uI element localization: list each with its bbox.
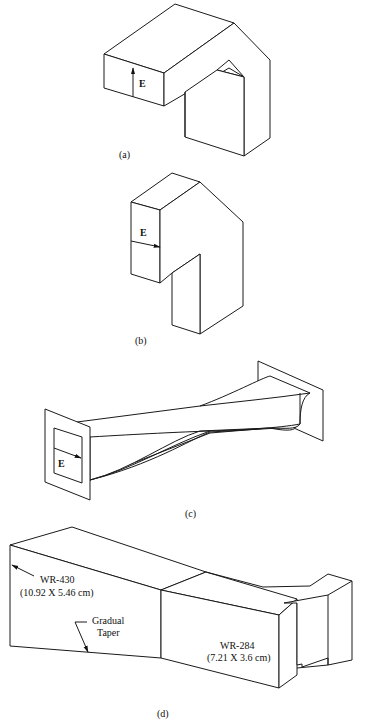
- caption-a: (a): [119, 149, 130, 161]
- e-field-label-a: E: [139, 78, 146, 89]
- wr430-label: WR-430: [40, 574, 74, 585]
- caption-c: (c): [185, 508, 196, 520]
- panel-b-h-plane-bend: E (b): [131, 173, 243, 347]
- taper-label-2: Taper: [97, 627, 120, 638]
- panel-d-taper-transition: WR-430 (10.92 X 5.46 cm) Gradual Taper W…: [10, 527, 352, 720]
- panel-c-twist: E (c): [45, 361, 323, 520]
- caption-b: (b): [135, 335, 147, 347]
- panel-a-e-plane-bend: E (a): [104, 4, 270, 161]
- wr430-dims: (10.92 X 5.46 cm): [20, 587, 94, 599]
- wr284-label: WR-284: [220, 640, 254, 651]
- wr284-dims: (7.21 X 3.6 cm): [207, 652, 271, 664]
- waveguide-components-figure: E (a) E (b) E (c): [0, 0, 365, 728]
- e-field-label-c: E: [58, 458, 65, 469]
- e-field-label-b: E: [140, 227, 147, 238]
- taper-label-1: Gradual: [92, 615, 124, 626]
- caption-d: (d): [157, 708, 169, 720]
